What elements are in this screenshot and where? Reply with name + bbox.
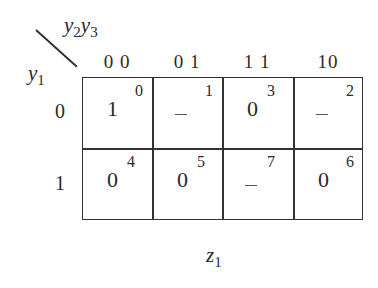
kmap-cell-4: 4 0 xyxy=(83,149,153,220)
cell-index: 7 xyxy=(267,153,275,171)
kmap-cell-1: 1 xyxy=(153,78,223,149)
kmap-cell-5: 5 0 xyxy=(153,149,223,220)
cell-index: 0 xyxy=(135,82,143,100)
row-header-0: 0 xyxy=(50,100,70,123)
cell-index: 4 xyxy=(127,153,135,171)
row-header-1: 1 xyxy=(50,172,70,195)
column-variables-label: y2y3 xyxy=(64,13,98,41)
kmap-grid: 0 1 1 3 0 2 4 0 5 0 7 6 0 xyxy=(82,77,363,220)
output-function-label: z1 xyxy=(206,243,222,271)
cell-index: 6 xyxy=(346,153,354,171)
cell-index: 2 xyxy=(346,82,354,100)
column-header-00: 0 0 xyxy=(82,51,152,73)
column-header-01: 0 1 xyxy=(152,51,222,73)
cell-index: 1 xyxy=(205,82,213,100)
cell-value: 0 xyxy=(247,96,258,122)
kmap-cell-3: 3 0 xyxy=(223,78,293,149)
cell-value: 0 xyxy=(107,167,118,193)
cell-value: 0 xyxy=(318,167,329,193)
kmap-cell-7: 7 xyxy=(223,149,293,220)
dont-care-dash xyxy=(245,185,257,186)
dont-care-dash xyxy=(316,114,328,115)
cell-index: 3 xyxy=(267,82,275,100)
row-variable-label: y1 xyxy=(28,61,45,89)
kmap-cell-2: 2 xyxy=(294,78,364,149)
kmap-cell-6: 6 0 xyxy=(294,149,364,220)
column-header-11: 1 1 xyxy=(222,51,292,73)
cell-value: 0 xyxy=(177,167,188,193)
cell-index: 5 xyxy=(197,153,205,171)
column-header-10: 10 xyxy=(293,51,363,73)
dont-care-dash xyxy=(175,114,187,115)
kmap-cell-0: 0 1 xyxy=(83,78,153,149)
cell-value: 1 xyxy=(107,96,118,122)
